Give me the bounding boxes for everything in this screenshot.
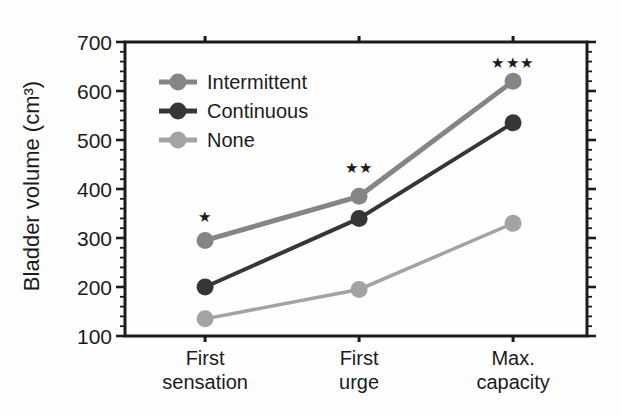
significance-stars: ★★★ [491,54,535,71]
y-tick-label: 200 [77,276,112,299]
y-tick-label: 300 [77,227,112,250]
y-tick-label: 700 [77,31,112,54]
none-line [205,223,513,319]
line-chart: 100200300400500600700FirstsensationFirst… [0,0,621,416]
y-tick-label: 400 [77,178,112,201]
legend-marker-dot [170,74,187,91]
legend-label: Intermittent [207,71,307,93]
intermittent-point-0 [197,232,214,249]
significance-stars: ★★ [345,159,374,176]
none-point-2 [505,215,522,232]
intermittent-point-1 [351,188,368,205]
legend-marker-dot [170,132,187,149]
x-category-label: capacity [476,371,549,393]
continuous-point-2 [505,114,522,131]
x-category-label: sensation [162,371,248,393]
legend-label: Continuous [207,100,308,122]
none-point-1 [351,281,368,298]
x-category-label: First [340,347,379,369]
continuous-point-0 [197,279,214,296]
legend-label: None [207,129,255,151]
significance-stars: ★ [198,208,213,225]
continuous-point-1 [351,210,368,227]
x-category-label: Max. [491,347,534,369]
y-tick-label: 500 [77,129,112,152]
none-point-0 [197,310,214,327]
intermittent-point-2 [505,73,522,90]
y-tick-label: 100 [77,325,112,348]
y-tick-label: 600 [77,80,112,103]
y-axis-title: Bladder volume (cm³) [19,36,47,336]
x-category-label: urge [339,371,379,393]
x-category-label: First [186,347,225,369]
figure-canvas: Bladder volume (cm³) 1002003004005006007… [0,0,621,416]
legend-marker-dot [170,103,187,120]
